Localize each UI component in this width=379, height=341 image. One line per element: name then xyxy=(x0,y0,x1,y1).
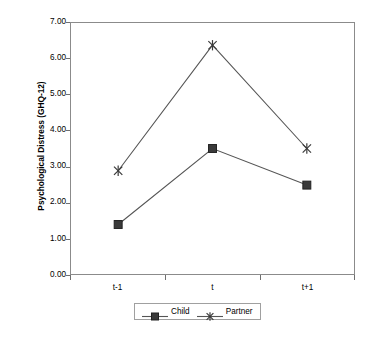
legend-entry-child[interactable]: Child xyxy=(142,307,190,316)
y-tick-label: 6.00 xyxy=(18,54,66,62)
legend-label: Partner xyxy=(226,307,253,316)
y-tick-label: 1.00 xyxy=(18,235,66,243)
legend-key-asterisk-icon xyxy=(197,307,223,316)
series-line-child xyxy=(118,149,307,225)
series-marker-partner xyxy=(114,40,311,176)
x-tick-label: t+1 xyxy=(273,283,343,292)
y-tick-label: 4.00 xyxy=(18,126,66,134)
x-tick-label: t xyxy=(178,283,248,292)
y-tick-label: 3.00 xyxy=(18,162,66,170)
y-tick-label: 2.00 xyxy=(18,198,66,206)
line-chart: Psychological Distress (GHQ-12) 7.00 6.0… xyxy=(0,0,379,341)
y-tick-label: 7.00 xyxy=(18,18,66,26)
x-tick-mark xyxy=(70,275,71,280)
y-tick-label: 0.00 xyxy=(18,271,66,279)
x-tick-mark xyxy=(260,275,261,280)
y-axis-title: Psychological Distress (GHQ-12) xyxy=(36,31,46,261)
x-tick-mark xyxy=(354,275,355,280)
legend-entry-partner[interactable]: Partner xyxy=(197,307,253,316)
legend-key-square-icon xyxy=(142,307,168,316)
legend-label: Child xyxy=(171,307,190,316)
series-marker-child xyxy=(114,145,311,229)
series-layer xyxy=(71,23,354,274)
y-tick-label: 5.00 xyxy=(18,90,66,98)
x-tick-label: t-1 xyxy=(83,283,153,292)
chart-legend: Child Partner xyxy=(134,303,261,320)
x-tick-mark xyxy=(165,275,166,280)
plot-area xyxy=(70,22,355,275)
